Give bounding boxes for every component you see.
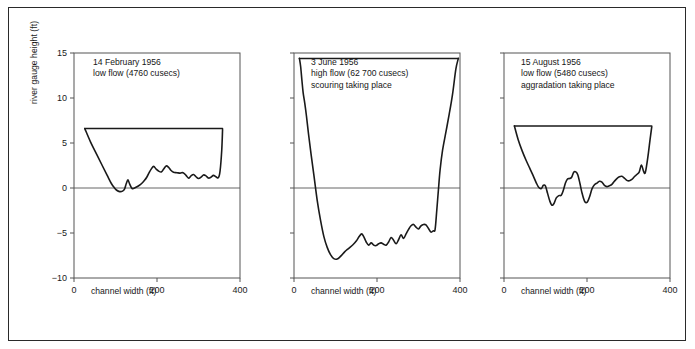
annotation-flow: low flow (5480 cusecs) (521, 68, 615, 79)
annotation-date: 15 August 1956 (521, 57, 615, 68)
y-tick-label: 10 (57, 93, 67, 103)
annotation-flow: low flow (4760 cusecs) (93, 68, 180, 79)
y-tick-label: 15 (57, 48, 67, 58)
y-tick-label: −5 (57, 228, 67, 238)
annotation-note: aggradation taking place (521, 80, 615, 91)
panel-annotation-aug: 15 August 1956 low flow (5480 cusecs) ag… (521, 57, 615, 91)
x-tick-label: 400 (662, 285, 677, 295)
x-tick-label: 0 (501, 285, 506, 295)
x-axis-label: channel width (ft) (521, 286, 586, 296)
x-tick-label: 0 (71, 285, 76, 295)
y-axis-label: river gauge height (ft) (29, 0, 39, 104)
annotation-date: 3 June 1956 (311, 57, 408, 68)
annotation-flow: high flow (62 700 cusecs) (311, 68, 408, 79)
panel-annotation-feb: 14 February 1956 low flow (4760 cusecs) (93, 57, 180, 80)
x-axis-label: channel width (ft) (311, 286, 376, 296)
panel-feb: river gauge height (ft) 14 February 1956… (31, 8, 256, 342)
figure-outer-border: river gauge height (ft) 14 February 1956… (8, 7, 686, 341)
x-axis-label: channel width (ft) (91, 286, 156, 296)
panel-jun: 3 June 1956 high flow (62 700 cusecs) sc… (251, 8, 476, 342)
channel-bed-profile (85, 129, 223, 192)
y-tick-label: 5 (62, 138, 67, 148)
y-tick-label: −10 (52, 273, 67, 283)
x-tick-label: 400 (232, 285, 247, 295)
annotation-note: scouring taking place (311, 80, 408, 91)
x-tick-label: 0 (291, 285, 296, 295)
panel-aug: 15 August 1956 low flow (5480 cusecs) ag… (461, 8, 686, 342)
y-tick-label: 0 (62, 183, 67, 193)
annotation-date: 14 February 1956 (93, 57, 180, 68)
figure-container: river gauge height (ft) 14 February 1956… (0, 0, 695, 349)
channel-bed-profile (514, 126, 651, 205)
panel-annotation-jun: 3 June 1956 high flow (62 700 cusecs) sc… (311, 57, 408, 91)
